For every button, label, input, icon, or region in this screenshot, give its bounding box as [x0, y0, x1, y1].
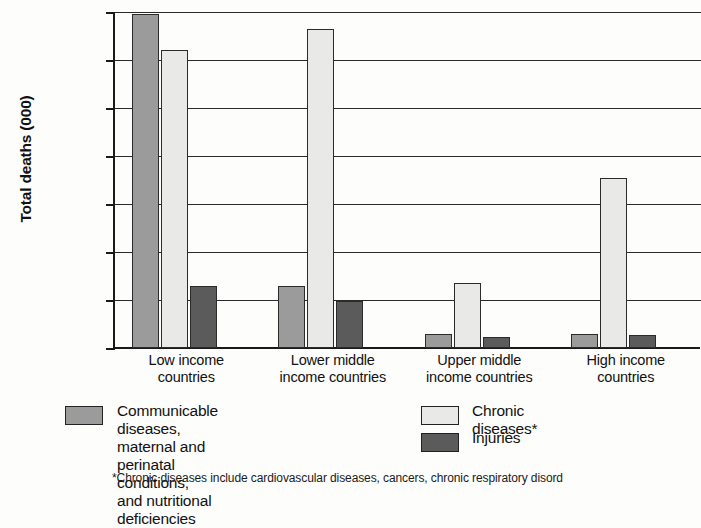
y-axis-title: Total deaths (000) [17, 29, 35, 289]
x-axis-label: High incomecountries [553, 352, 700, 386]
y-axis-tick [106, 204, 115, 206]
x-axis-label: Low incomecountries [113, 352, 260, 386]
legend-swatch-chronic [421, 406, 459, 425]
bar-injuries [629, 335, 656, 348]
bar-communicable [571, 334, 598, 348]
bar-communicable [425, 334, 452, 348]
bar-chronic [600, 178, 627, 348]
x-axis-labels: Low incomecountriesLower middleincome co… [113, 352, 699, 396]
bar-injuries [190, 286, 217, 348]
y-axis-tick [106, 252, 115, 254]
bar-injuries [483, 337, 510, 348]
legend-swatch-communicable [65, 406, 103, 425]
y-axis-tick [106, 12, 115, 14]
legend-label-communicable: Communicable diseases, maternal and peri… [117, 402, 218, 528]
legend-label-injuries: Injuries [472, 429, 520, 447]
gridline [115, 108, 701, 109]
legend-swatch-injuries [421, 433, 459, 452]
x-axis-label: Lower middleincome countries [260, 352, 407, 386]
y-axis-tick [106, 300, 115, 302]
x-axis-label: Upper middleincome countries [406, 352, 553, 386]
gridline [115, 156, 701, 157]
y-axis-tick [106, 108, 115, 110]
bar-chronic [161, 50, 188, 348]
bar-communicable [278, 286, 305, 348]
y-axis-tick [106, 156, 115, 158]
y-axis-tick [106, 348, 115, 350]
bar-injuries [336, 301, 363, 348]
gridline [115, 60, 701, 61]
y-axis-tick [106, 60, 115, 62]
gridline [115, 12, 701, 13]
bar-chronic [307, 29, 334, 348]
chart-footnote: *Chronic diseases include cardiovascular… [112, 471, 701, 485]
chart-legend: Communicable diseases, maternal and peri… [0, 400, 701, 466]
bar-communicable [132, 14, 159, 348]
plot-area: 14,00012,00010,0008,0006,0004,0002,0000 [113, 12, 699, 348]
bar-chronic [454, 283, 481, 348]
